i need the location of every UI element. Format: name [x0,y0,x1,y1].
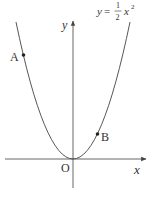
origin-label: O [61,161,70,175]
parabola-diagram: A B O x y y = 1 2 x 2 [0,0,152,197]
svg-text:y: y [96,5,102,17]
point-b [96,132,100,136]
point-a [22,53,26,57]
fraction-numerator: 1 [116,1,120,10]
x-axis-label: x [133,162,140,177]
fraction-denominator: 2 [116,13,120,22]
exponent: 2 [131,3,135,11]
svg-text:x: x [123,5,129,17]
point-a-label: A [10,50,19,64]
point-b-label: B [101,130,109,144]
svg-text:=: = [104,5,110,17]
equation-label: y = 1 2 x 2 [96,1,135,22]
y-axis-label: y [61,18,68,32]
